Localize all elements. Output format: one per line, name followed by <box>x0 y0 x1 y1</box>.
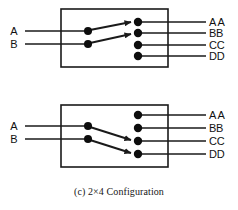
panel-bottom-output-node-cc <box>134 137 142 145</box>
panel-bottom-output-node-dd <box>134 150 142 158</box>
panel-bottom-route-a-to-cc <box>90 127 131 140</box>
panel-bottom-output-label-bb: BB <box>209 122 223 134</box>
panel-top-output-node-aa <box>134 18 142 26</box>
panel-bottom-output-node-bb <box>134 124 142 132</box>
panel-bottom-input-label-a: A <box>10 120 18 132</box>
panel-top-output-node-bb <box>134 29 142 37</box>
panel-top-route-a-to-aa <box>90 22 131 30</box>
panel-top-output-label-dd: DD <box>209 50 225 62</box>
panel-top-switch-node-a <box>84 27 92 35</box>
panel-top-route-b-to-bb <box>90 34 131 43</box>
panel-top-switch-node-b <box>84 40 92 48</box>
figure-caption: (c) 2×4 Configuration <box>0 186 238 197</box>
panel-bottom-output-label-dd: DD <box>209 148 225 160</box>
panel-bottom-input-label-b: B <box>10 133 17 145</box>
panel-top: A B AA BB CC DD <box>10 9 226 67</box>
panel-bottom-route-b-to-dd <box>90 140 131 153</box>
panel-top-output-node-dd <box>134 52 142 60</box>
panel-top-input-label-a: A <box>10 25 18 37</box>
panel-bottom-output-label-cc: CC <box>209 135 225 147</box>
panel-bottom-output-label-aa: AA <box>209 109 226 121</box>
panel-bottom: A B AA BB CC DD <box>10 105 226 167</box>
panel-bottom-output-node-aa <box>134 111 142 119</box>
switch-configuration-figure: A B AA BB CC DD <box>0 0 238 210</box>
panel-bottom-switch-node-b <box>84 135 92 143</box>
panel-top-output-label-bb: BB <box>209 27 223 39</box>
panel-top-input-label-b: B <box>10 38 17 50</box>
panel-top-output-node-cc <box>134 41 142 49</box>
panel-bottom-switch-node-a <box>84 122 92 130</box>
diagram-canvas: A B AA BB CC DD <box>0 0 238 210</box>
